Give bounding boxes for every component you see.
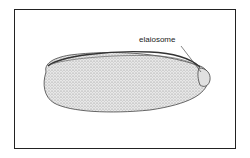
seed-body (44, 52, 209, 112)
elaiosome-label: elaiosome (139, 36, 175, 44)
seed-illustration (0, 0, 250, 158)
